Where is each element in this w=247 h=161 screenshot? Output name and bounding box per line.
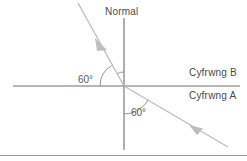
medium-upper-label: Cyfrwng B bbox=[189, 67, 237, 78]
reflection-diagram-canvas: Normal Cyfrwng B Cyfrwng A 60° 60° bbox=[0, 0, 247, 161]
reflection-angle-arc bbox=[100, 66, 111, 86]
reflected-ray-arrowhead bbox=[95, 38, 107, 51]
normal-reflection-gap-arc bbox=[117, 72, 124, 74]
reflection-angle-label: 60° bbox=[78, 74, 93, 85]
reflection-diagram: Normal Cyfrwng B Cyfrwng A 60° 60° bbox=[0, 0, 247, 161]
normal-label: Normal bbox=[105, 6, 138, 17]
incident-ray-arrowhead bbox=[189, 125, 203, 135]
medium-lower-label: Cyfrwng A bbox=[189, 90, 237, 101]
incidence-angle-label: 60° bbox=[131, 107, 146, 118]
